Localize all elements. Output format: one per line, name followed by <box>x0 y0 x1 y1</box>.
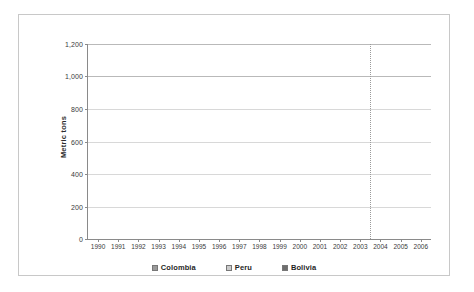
x-axis-tick-mark <box>219 239 220 242</box>
legend-label: Colombia <box>161 263 196 272</box>
y-axis-tick-label: 400 <box>71 170 83 177</box>
chart-legend: ColombiaPeruBolivia <box>19 263 449 272</box>
bar-group-1995[interactable]: 1995 <box>189 44 209 239</box>
x-axis-tick-mark <box>199 239 200 242</box>
y-axis-tick-label: 200 <box>71 203 83 210</box>
x-axis-tick-mark <box>300 239 301 242</box>
x-axis-tick-label: 1999 <box>272 243 286 250</box>
plot-area: 02004006008001,0001,200 1990199119921993… <box>87 44 431 240</box>
x-axis-tick-mark <box>280 239 281 242</box>
y-axis-title: Metric tons <box>59 116 68 158</box>
legend-label: Peru <box>235 263 252 272</box>
x-axis-tick-mark <box>239 239 240 242</box>
x-axis-tick-label: 1992 <box>131 243 145 250</box>
x-axis-tick-label: 1991 <box>111 243 125 250</box>
y-axis-tick-label: 800 <box>71 105 83 112</box>
x-axis-tick-mark <box>179 239 180 242</box>
y-axis-tick-label: 1,000 <box>65 73 83 80</box>
legend-item-peru[interactable]: Peru <box>226 263 252 272</box>
x-axis-tick-label: 1995 <box>192 243 206 250</box>
x-axis-tick-mark <box>98 239 99 242</box>
legend-swatch-icon <box>282 265 288 271</box>
bar-group-2002[interactable]: 2002 <box>330 44 350 239</box>
legend-swatch-icon <box>226 265 232 271</box>
bar-group-1996[interactable]: 1996 <box>209 44 229 239</box>
x-axis-tick-label: 2001 <box>313 243 327 250</box>
x-axis-tick-mark <box>401 239 402 242</box>
y-axis-tick-mark <box>85 239 88 240</box>
x-axis-tick-label: 2005 <box>393 243 407 250</box>
x-axis-tick-label: 2002 <box>333 243 347 250</box>
bar-group-1999[interactable]: 1999 <box>270 44 290 239</box>
x-axis-tick-label: 1998 <box>252 243 266 250</box>
x-axis-tick-mark <box>421 239 422 242</box>
reference-line <box>370 44 371 239</box>
y-axis-tick-label: 1,200 <box>65 41 83 48</box>
x-axis-tick-label: 1997 <box>232 243 246 250</box>
y-axis-tick-label: 600 <box>71 138 83 145</box>
y-axis-tick-label: 0 <box>79 236 83 243</box>
bar-group-1992[interactable]: 1992 <box>128 44 148 239</box>
x-axis-tick-label: 1994 <box>172 243 186 250</box>
legend-item-colombia[interactable]: Colombia <box>152 263 196 272</box>
legend-label: Bolivia <box>291 263 316 272</box>
bar-group-2001[interactable]: 2001 <box>310 44 330 239</box>
bar-group-1998[interactable]: 1998 <box>249 44 269 239</box>
bar-group-1993[interactable]: 1993 <box>149 44 169 239</box>
chart-frame: Metric tons 02004006008001,0001,200 1990… <box>18 14 450 276</box>
bar-group-1990[interactable]: 1990 <box>88 44 108 239</box>
bar-group-2005[interactable]: 2005 <box>391 44 411 239</box>
x-axis-tick-mark <box>380 239 381 242</box>
bar-group-2004[interactable]: 2004 <box>370 44 390 239</box>
x-axis-tick-mark <box>138 239 139 242</box>
bar-group-1997[interactable]: 1997 <box>229 44 249 239</box>
x-axis-tick-label: 1993 <box>151 243 165 250</box>
x-axis-tick-mark <box>159 239 160 242</box>
bar-group-1994[interactable]: 1994 <box>169 44 189 239</box>
x-axis-tick-mark <box>360 239 361 242</box>
x-axis-tick-mark <box>320 239 321 242</box>
x-axis-tick-label: 2003 <box>353 243 367 250</box>
bar-group-2006[interactable]: 2006 <box>411 44 431 239</box>
legend-swatch-icon <box>152 265 158 271</box>
bar-group-1991[interactable]: 1991 <box>108 44 128 239</box>
x-axis-tick-mark <box>118 239 119 242</box>
x-axis-tick-label: 2006 <box>414 243 428 250</box>
bar-group-2000[interactable]: 2000 <box>290 44 310 239</box>
x-axis-tick-label: 1996 <box>212 243 226 250</box>
legend-item-bolivia[interactable]: Bolivia <box>282 263 316 272</box>
x-axis-tick-label: 2004 <box>373 243 387 250</box>
bar-group-2003[interactable]: 2003 <box>350 44 370 239</box>
bar-series-container: 1990199119921993199419951996199719981999… <box>88 44 431 239</box>
x-axis-tick-mark <box>259 239 260 242</box>
x-axis-tick-label: 2000 <box>293 243 307 250</box>
x-axis-tick-mark <box>340 239 341 242</box>
x-axis-tick-label: 1990 <box>91 243 105 250</box>
